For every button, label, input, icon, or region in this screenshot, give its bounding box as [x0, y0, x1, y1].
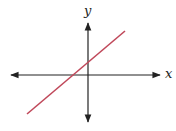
coordinate-plane-figure: y x: [0, 0, 176, 131]
graph-svg: [0, 0, 176, 131]
plotted-line: [27, 31, 125, 114]
y-axis-label: y: [84, 4, 91, 17]
x-axis-label: x: [165, 67, 172, 80]
